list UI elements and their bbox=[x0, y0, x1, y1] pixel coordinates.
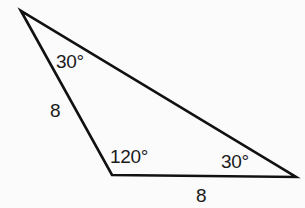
side-label-bottom: 8 bbox=[196, 186, 206, 205]
angle-label-bottom-left: 120° bbox=[110, 147, 148, 166]
angle-label-top: 30° bbox=[56, 52, 84, 71]
side-label-left: 8 bbox=[50, 101, 60, 120]
angle-label-right: 30° bbox=[221, 152, 249, 171]
triangle-outline bbox=[21, 11, 296, 177]
triangle-shape bbox=[0, 0, 305, 208]
